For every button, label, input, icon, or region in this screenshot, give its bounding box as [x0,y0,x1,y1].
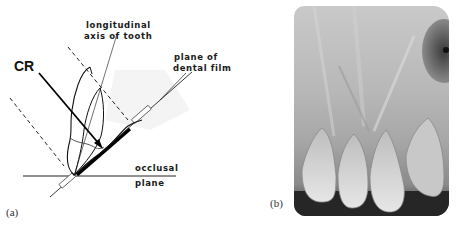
central-ray-label: CR [14,58,34,74]
central-ray-arrow [39,73,100,145]
panel-a-caption: (a) [6,206,18,218]
panel-a-diagram: CR longitudinal axis of tooth plane of d… [0,0,240,230]
root-apex [90,67,92,74]
tooth-lateral-right [406,118,444,196]
tooth-axis-label-line2: axis of tooth [84,31,152,41]
dental-film [77,129,130,175]
shaded-region [105,70,190,130]
film-plane-label-line2: dental film [173,63,232,73]
tooth-axis-label-line1: longitudinal [86,20,151,30]
radiograph-image [294,6,449,216]
panel-b-caption: (b) [270,197,283,209]
tooth-central-right [370,130,404,212]
tooth-central-left [338,134,368,208]
film-plane-label-line1: plane of [174,52,218,62]
dental-radiograph [294,6,449,216]
occlusal-plane-label-line1: occlusal [135,163,178,173]
tooth-lateral-left [302,128,336,202]
projection-dashed-line-left [10,98,64,166]
panel-b-radiograph: (b) [256,0,457,230]
occlusal-plane-label-line2: plane [135,178,165,188]
